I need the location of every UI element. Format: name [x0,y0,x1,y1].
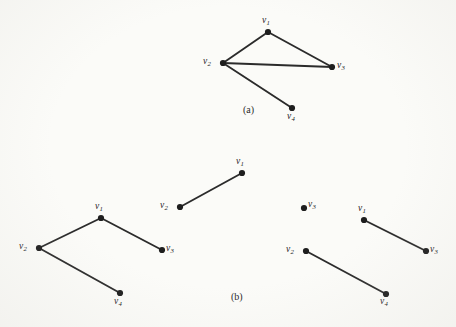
vertex-label-panel-a-v4: v4 [287,112,295,122]
vertex-label-panel-a-v1: v1 [262,16,270,26]
graph-vertex-panel-b-graph-3-v2 [303,248,309,254]
vertex-label-panel-b-graph-2-v1: v1 [236,157,244,167]
graph-edge-panel-a-v1-v3 [268,32,332,67]
panel-b-caption: (b) [231,291,243,302]
vertex-label-panel-b-graph-3-v1: v1 [358,204,366,214]
vertex-label-panel-b-graph-2-v2: v2 [160,201,168,211]
vertex-label-panel-b-graph-1-v1: v1 [95,202,103,212]
graph-vertex-panel-b-graph-1-v1 [98,215,104,221]
graph-figure: v1v2v3v4v1v2v3v4v1v2v3v1v3v2v4 (a) (b) [0,0,456,327]
graph-edge-panel-b-graph-1-v2-v4 [39,248,120,293]
vertex-label-panel-b-graph-3-v3i: v3 [308,200,316,210]
graph-vertex-panel-a-v3 [329,64,335,70]
graph-vertex-panel-b-graph-3-v1 [361,217,367,223]
edges-layer [39,32,426,294]
panel-a-caption: (a) [243,104,254,115]
vertex-label-panel-b-graph-3-v3: v3 [430,245,438,255]
graph-vertex-panel-b-graph-1-v2 [36,245,42,251]
graph-vertex-panel-b-graph-3-v3 [423,248,429,254]
graph-vertex-panel-a-v1 [265,29,271,35]
graph-edge-panel-b-graph-1-v1-v2 [39,218,101,248]
graph-vertex-panel-b-graph-1-v3 [159,247,165,253]
vertex-label-panel-b-graph-1-v2: v2 [19,242,27,252]
graph-edge-panel-a-v2-v4 [223,63,292,108]
graph-drawing-canvas [0,0,456,327]
graph-vertex-panel-b-graph-2-v1 [239,170,245,176]
graph-edge-panel-b-graph-2-v1-v2 [180,173,242,207]
vertex-label-panel-b-graph-1-v4: v4 [114,297,122,307]
graph-edge-panel-a-v1-v2 [223,32,268,63]
vertex-label-panel-b-graph-3-v2: v2 [286,245,294,255]
vertex-label-panel-a-v2: v2 [203,57,211,67]
graph-edge-panel-b-graph-1-v1-v3 [101,218,162,250]
graph-edge-panel-b-graph-3-v1-v3 [364,220,426,251]
vertex-label-panel-a-v3: v3 [337,61,345,71]
graph-vertex-panel-b-graph-3-v3i [301,205,307,211]
graph-vertex-panel-b-graph-2-v2 [177,204,183,210]
graph-edge-panel-a-v2-v3 [223,63,332,67]
vertex-label-panel-b-graph-1-v3: v3 [166,244,174,254]
graph-edge-panel-b-graph-3-v2-v4 [306,251,386,294]
graph-vertex-panel-a-v2 [220,60,226,66]
vertex-label-panel-b-graph-3-v4: v4 [380,297,388,307]
